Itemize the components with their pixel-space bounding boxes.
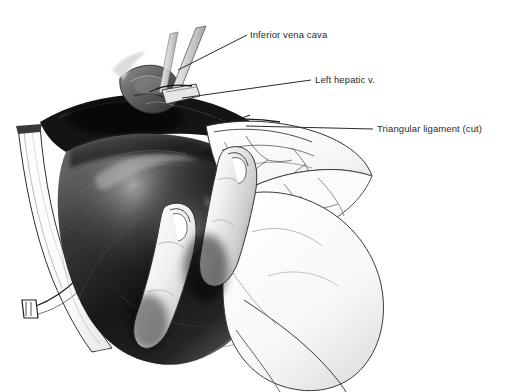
label-inferior-vena-cava: Inferior vena cava <box>250 29 327 40</box>
medical-illustration-figure: Inferior vena cava Left hepatic v. Trian… <box>0 0 509 392</box>
illustration-artwork <box>0 0 509 392</box>
label-left-hepatic-vein: Left hepatic v. <box>315 74 375 85</box>
label-triangular-ligament-cut: Triangular ligament (cut) <box>377 123 482 134</box>
